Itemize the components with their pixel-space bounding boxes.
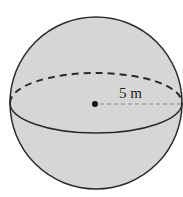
radius-label: 5 m [119,85,142,101]
center-point [92,101,98,107]
sphere-diagram: 5 m [0,0,183,197]
